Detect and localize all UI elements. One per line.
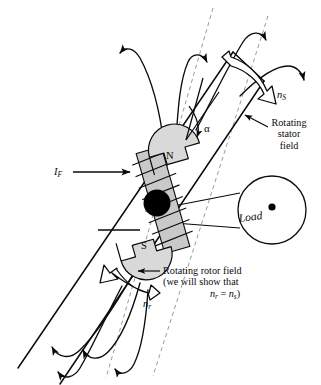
field-current-label: IF [54, 166, 62, 180]
synchronous-machine-diagram: Rotating stator field Rotating rotor fie… [0, 0, 321, 385]
rotating-stator-field-line-1: Rotating [258, 117, 320, 128]
stator-bar [18, 52, 264, 384]
load-center-dot-icon [268, 203, 275, 210]
rotating-stator-field-line-3: field [258, 140, 320, 151]
rotating-rotor-field-line-1: Rotating rotor field [163, 265, 287, 276]
north-pole-label: N [166, 150, 174, 162]
flux-line-bottom-3 [58, 286, 122, 377]
stator-speed-label: nS [277, 89, 286, 103]
stator-rotation-block-arrow [222, 51, 276, 104]
rotating-rotor-field-label: Rotating rotor field (we will show that … [163, 265, 287, 301]
rotating-rotor-field-equation: nr = ns) [163, 288, 287, 301]
rotor-eq-close-paren: ) [237, 288, 240, 299]
alpha-leg-rotor [186, 78, 203, 140]
block-curved-arrow-clockwise-icon [222, 51, 276, 104]
rotor-speed-label: nr [143, 298, 151, 312]
alpha-angle-label: α [204, 122, 210, 134]
flux-lines-bottom [52, 276, 148, 377]
stator-speed-subscript: S [282, 93, 286, 102]
rotating-stator-field-label: Rotating stator field [258, 117, 320, 151]
rotating-stator-field-line-2: stator [258, 128, 320, 139]
rotor-assembly [129, 145, 196, 256]
rotor-speed-subscript: r [148, 302, 151, 311]
alpha-leg-stator [186, 92, 219, 140]
diagram-canvas [0, 0, 321, 385]
field-current-arrow-group [73, 172, 140, 230]
field-current-subscript: F [58, 170, 63, 179]
stator-bar-edge-left [18, 52, 233, 368]
south-pole-label: S [141, 240, 147, 252]
rotor-core-disc [144, 190, 171, 217]
rotating-rotor-field-line-2: (we will show that [163, 276, 287, 287]
rotor-eq-equals: = [218, 288, 229, 299]
